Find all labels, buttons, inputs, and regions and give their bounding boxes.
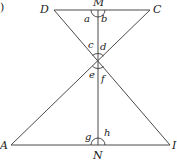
angle-label-f: f xyxy=(100,73,107,84)
angle-label-e: e xyxy=(89,69,95,80)
segment-db xyxy=(54,10,170,145)
angle-label-a: a xyxy=(84,13,90,24)
point-label-b: I xyxy=(171,139,177,152)
angle-arc-g xyxy=(91,138,98,145)
geometry-diagram: ) D M C A N I a b c d e f g h xyxy=(0,0,177,161)
angle-arc-a xyxy=(91,10,98,17)
fragment-label: ) xyxy=(0,1,4,14)
point-label-d: D xyxy=(39,3,49,16)
angle-arc-d xyxy=(98,53,104,56)
point-label-c: C xyxy=(153,3,162,16)
point-label-a: A xyxy=(0,139,8,152)
point-label-m: M xyxy=(92,0,105,9)
angle-label-h: h xyxy=(104,127,110,138)
angle-arc-c xyxy=(93,53,99,55)
angle-label-g: g xyxy=(85,131,91,142)
angle-label-b: b xyxy=(101,13,107,24)
point-label-n: N xyxy=(92,149,103,161)
angle-arc-h xyxy=(98,138,105,145)
angle-arc-f xyxy=(98,67,104,69)
angle-label-c: c xyxy=(88,39,94,50)
angle-label-d: d xyxy=(100,41,106,52)
segment-ca xyxy=(11,10,150,145)
